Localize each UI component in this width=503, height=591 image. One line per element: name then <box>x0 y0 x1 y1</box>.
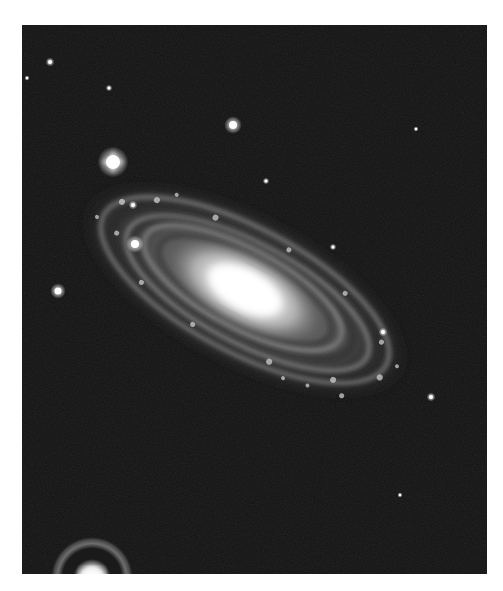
star <box>55 288 62 295</box>
star <box>429 395 433 399</box>
star <box>399 494 401 496</box>
star <box>26 77 28 79</box>
star <box>108 87 111 90</box>
star <box>381 330 385 334</box>
star <box>131 240 139 248</box>
star <box>332 246 335 249</box>
star <box>131 203 135 207</box>
galaxy-photograph <box>22 25 487 574</box>
star <box>265 180 268 183</box>
star <box>415 128 417 130</box>
star <box>48 60 52 64</box>
star <box>229 121 237 129</box>
galaxy-illustration <box>22 25 487 574</box>
